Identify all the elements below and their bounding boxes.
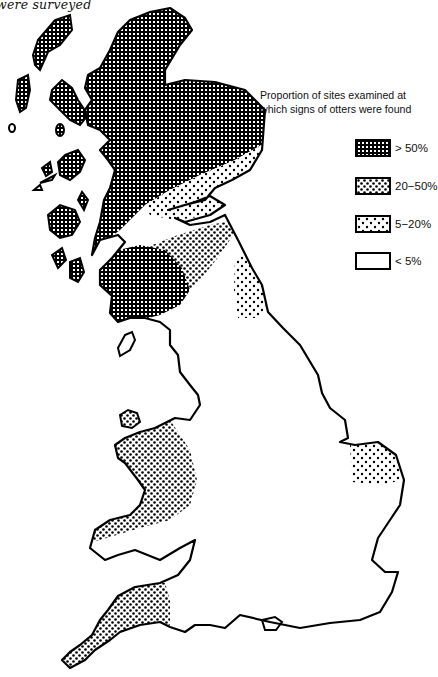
legend-label: 5−20% [395,218,431,230]
legend-item-5-20: 5−20% [355,216,431,232]
legend-title-line2: which signs of otters were found [260,102,420,116]
legend-label: 20−50% [395,180,438,192]
legend-label: > 50% [395,142,428,154]
blank-swatch-icon [355,252,391,270]
legend-label: < 5% [395,255,422,267]
legend-item-over-50: > 50% [355,140,428,156]
legend-title: Proportion of sites examined at which si… [260,88,420,116]
legend-item-20-50: 20−50% [355,178,438,194]
legend: Proportion of sites examined at which si… [260,88,420,125]
sparse-dots-swatch-icon [355,215,391,233]
dense-dots-swatch-icon [355,177,391,195]
region-norfolk [350,440,400,485]
isle-of-man [118,332,135,356]
legend-title-line1: Proportion of sites examined at [260,88,420,102]
crosshatch-swatch-icon [355,139,391,157]
region-northumberland [234,250,268,318]
anglesey [120,410,140,428]
small-islands-outline [9,124,55,190]
scottish-islands [16,15,88,282]
legend-item-under-5: < 5% [355,253,422,269]
region-southwest [40,580,170,677]
